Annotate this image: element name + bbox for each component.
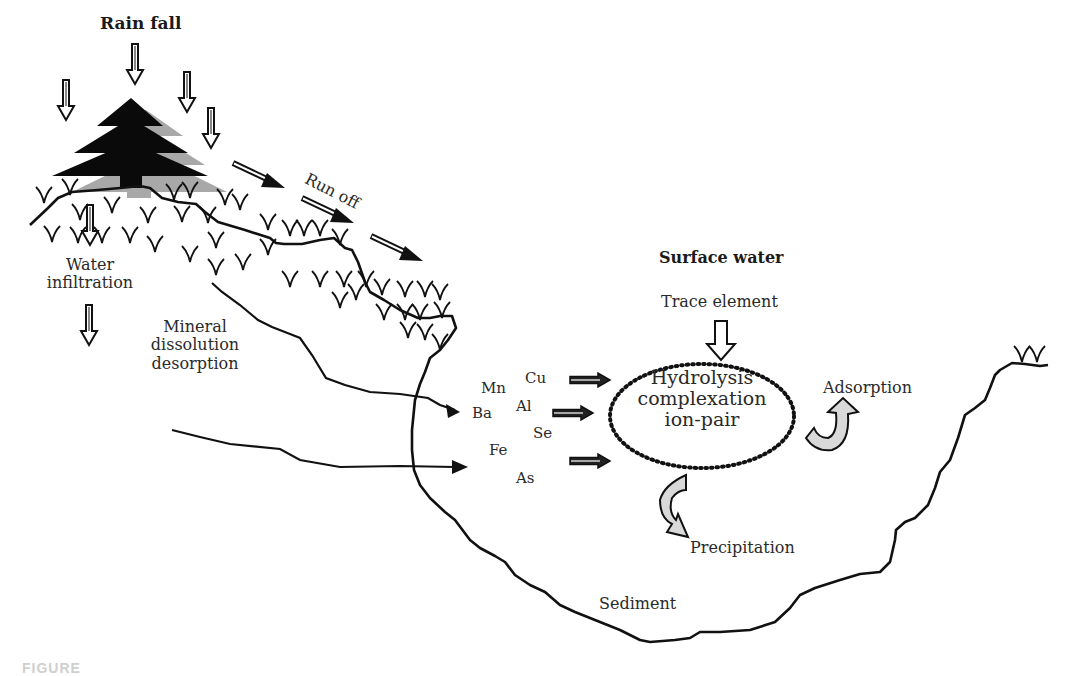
runoff-arrow-icon [371, 236, 423, 261]
element-ba: Ba [472, 405, 492, 422]
mineral-dissolution-label: Mineral dissolution desorption [140, 318, 250, 373]
rain-arrow-icon [203, 108, 219, 148]
conifer-tree-icon [52, 98, 227, 198]
rain-arrow-icon [127, 44, 143, 84]
runoff-arrow-icon [233, 163, 285, 188]
water-infiltration-label: Water infiltration [40, 256, 140, 293]
water-infiltration-line2: infiltration [40, 274, 140, 292]
ground-surface-line [30, 186, 1048, 642]
precipitation-label: Precipitation [690, 539, 795, 557]
mineral-line1: Mineral [140, 318, 250, 336]
rain-arrow-icon [179, 72, 195, 112]
process-line3: ion-pair [612, 409, 792, 430]
element-arrows [553, 373, 610, 468]
element-se: Se [533, 425, 552, 442]
element-cu: Cu [525, 370, 546, 387]
water-infiltration-line1: Water [40, 256, 140, 274]
right-arrow-icon [553, 406, 593, 420]
element-al: Al [516, 398, 532, 415]
trace-element-arrow-icon [707, 321, 735, 360]
precipitation-curved-arrow-icon [660, 475, 688, 537]
adsorption-label: Adsorption [823, 379, 912, 397]
mineral-line2: dissolution [140, 336, 250, 354]
infiltration-arrow-icon [81, 305, 97, 345]
process-label: Hydrolysis complexation ion-pair [612, 367, 792, 430]
mineral-line3: desorption [140, 355, 250, 373]
sediment-label: Sediment [599, 595, 676, 613]
element-fe: Fe [489, 442, 507, 459]
element-as: As [516, 470, 535, 487]
process-line1: Hydrolysis [612, 367, 792, 388]
process-line2: complexation [612, 388, 792, 409]
surface-water-label: Surface water [659, 249, 784, 267]
right-arrow-icon [570, 373, 610, 387]
flow-arrowhead-icon [452, 460, 468, 474]
adsorption-curved-arrow-icon [806, 398, 858, 450]
figure-caption-fragment: FIGURE [22, 660, 81, 676]
element-mn: Mn [481, 380, 506, 397]
rain-arrow-icon [58, 80, 74, 120]
trace-element-label: Trace element [661, 293, 778, 311]
rain-fall-label: Rain fall [100, 14, 182, 34]
right-arrow-icon [570, 454, 610, 468]
infiltration-arrow-icon [82, 205, 98, 245]
flow-arrowhead-icon [446, 404, 460, 418]
